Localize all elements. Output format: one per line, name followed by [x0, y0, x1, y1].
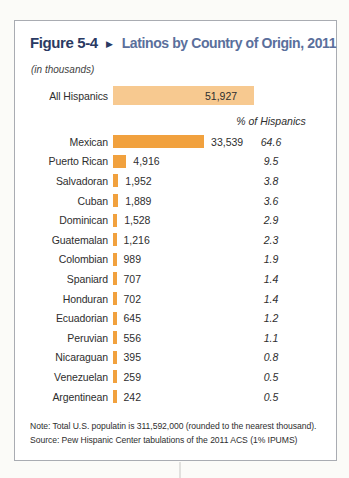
total-bar: 51,927 — [113, 86, 254, 105]
bar-rows: Mexican 33,539 64.6 Puerto Rican 4,916 9… — [15, 132, 336, 406]
units-note: (in thousands) — [31, 64, 336, 75]
bar-wrap: 242 — [113, 390, 141, 403]
bar-row: Cuban 1,889 3.6 — [15, 191, 336, 211]
bar-value-label: 259 — [124, 371, 142, 383]
bar-value-label: 242 — [124, 391, 142, 403]
bar — [113, 194, 118, 207]
bar — [113, 135, 204, 148]
bar-row-label: Honduran — [15, 293, 108, 305]
note-text: Note: Total U.S. populatin is 311,592,00… — [30, 419, 332, 433]
bar-percent-label: 3.6 — [243, 195, 299, 207]
bar-row: Salvadoran 1,952 3.8 — [15, 171, 336, 191]
page-fold-line — [179, 462, 181, 478]
bar — [113, 351, 117, 364]
bar — [113, 214, 117, 227]
bar — [113, 272, 117, 285]
bar-percent-label: 1.2 — [243, 312, 299, 324]
bar-percent-label: 1.4 — [243, 293, 299, 305]
bar-row: Puerto Rican 4,916 9.5 — [15, 152, 336, 172]
bar-value-label: 556 — [124, 332, 142, 344]
bar-row-label: Venezuelan — [15, 371, 108, 383]
bar-percent-label: 2.3 — [243, 234, 299, 246]
bar-value-label: 1,952 — [125, 175, 151, 187]
figure-number-label: Figure 5-4 — [30, 34, 98, 51]
bar-wrap: 707 — [113, 272, 141, 285]
bar-percent-label: 0.8 — [243, 351, 299, 363]
bar-value-label: 395 — [124, 351, 142, 363]
bar-value-label: 33,539 — [211, 136, 243, 148]
bar-row-label: Dominican — [15, 214, 108, 226]
figure-panel: Figure 5-4 ▶ Latinos by Country of Origi… — [14, 20, 337, 461]
bar — [113, 370, 117, 383]
bar-wrap: 645 — [113, 312, 141, 325]
bar-row: Colombian 989 1.9 — [15, 250, 336, 270]
bar-row-label: Puerto Rican — [15, 155, 108, 167]
bar-percent-label: 0.5 — [243, 391, 299, 403]
figure-notes: Note: Total U.S. populatin is 311,592,00… — [30, 419, 332, 447]
bar-row-label: Cuban — [15, 195, 108, 207]
bar-wrap: 4,916 — [113, 155, 160, 168]
bar-row: Nicaraguan 395 0.8 — [15, 348, 336, 368]
bar-row-label: Salvadoran — [15, 175, 108, 187]
bar-row: Guatemalan 1,216 2.3 — [15, 230, 336, 250]
bar-percent-label: 1.1 — [243, 332, 299, 344]
bar-wrap: 1,216 — [113, 233, 150, 246]
bar-wrap: 989 — [113, 253, 141, 266]
bar-value-label: 702 — [124, 293, 142, 305]
bar-row: Mexican 33,539 64.6 — [15, 132, 336, 152]
bar-wrap: 1,889 — [113, 194, 151, 207]
bar-row-label: Spaniard — [15, 273, 108, 285]
bar — [113, 155, 126, 168]
percent-column-header: % of Hispanics — [215, 115, 327, 127]
bar-value-label: 707 — [124, 273, 142, 285]
bar-wrap: 1,952 — [113, 174, 152, 187]
bar — [113, 312, 117, 325]
bar-row-label: Guatemalan — [15, 234, 108, 246]
bar-value-label: 1,216 — [124, 234, 150, 246]
arrow-right-icon: ▶ — [106, 39, 113, 49]
bar-wrap: 259 — [113, 370, 141, 383]
bar — [113, 390, 117, 403]
bar-row: Spaniard 707 1.4 — [15, 269, 336, 289]
bar-row-label: Ecuadorian — [15, 312, 108, 324]
source-text: Source: Pew Hispanic Center tabulations … — [30, 433, 332, 447]
bar — [113, 253, 117, 266]
total-row: All Hispanics 51,927 — [15, 86, 336, 105]
bar-percent-label: 0.5 — [243, 371, 299, 383]
figure-title: Latinos by Country of Origin, 2011 — [122, 35, 336, 51]
bar-row: Dominican 1,528 2.9 — [15, 210, 336, 230]
bar-row-label: Argentinean — [15, 391, 108, 403]
bar-wrap: 33,539 — [113, 135, 243, 148]
percent-header-row: % of Hispanics — [15, 115, 336, 129]
figure-title-row: Figure 5-4 ▶ Latinos by Country of Origi… — [30, 34, 336, 51]
bar-percent-label: 1.4 — [243, 273, 299, 285]
total-bar-value: 51,927 — [205, 90, 237, 102]
bar — [113, 233, 117, 246]
bar-row-label: Mexican — [15, 136, 108, 148]
bar — [113, 292, 117, 305]
bar-percent-label: 1.9 — [243, 253, 299, 265]
bar-value-label: 1,889 — [125, 195, 151, 207]
bar-row: Honduran 702 1.4 — [15, 289, 336, 309]
bar-row: Peruvian 556 1.1 — [15, 328, 336, 348]
bar-value-label: 1,528 — [124, 214, 150, 226]
bar-row: Ecuadorian 645 1.2 — [15, 308, 336, 328]
bar-wrap: 556 — [113, 331, 141, 344]
bar — [113, 174, 118, 187]
total-row-label: All Hispanics — [15, 90, 108, 102]
bar-percent-label: 9.5 — [243, 155, 299, 167]
bar-row: Argentinean 242 0.5 — [15, 387, 336, 407]
bar-row: Venezuelan 259 0.5 — [15, 367, 336, 387]
bar — [113, 331, 117, 344]
bar-value-label: 645 — [124, 312, 142, 324]
bar-percent-label: 3.8 — [243, 175, 299, 187]
bar-wrap: 702 — [113, 292, 141, 305]
bar-wrap: 395 — [113, 351, 141, 364]
bar-row-label: Colombian — [15, 253, 108, 265]
bar-percent-label: 2.9 — [243, 214, 299, 226]
bar-row-label: Peruvian — [15, 332, 108, 344]
bar-wrap: 1,528 — [113, 214, 150, 227]
bar-value-label: 989 — [124, 253, 142, 265]
bar-row-label: Nicaraguan — [15, 351, 108, 363]
bar-value-label: 4,916 — [133, 155, 159, 167]
